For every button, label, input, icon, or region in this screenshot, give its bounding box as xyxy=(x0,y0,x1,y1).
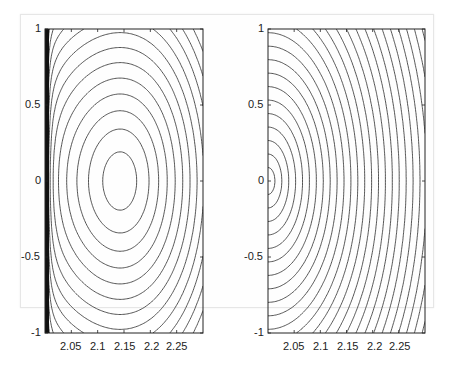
right-xtick-2.1: 2.1 xyxy=(313,340,328,352)
right-contour-plot: 1 0.5 0 -0.5 -1 2.05 2.1 2.15 2.2 2.25 xyxy=(0,0,450,369)
right-xtick-2.25: 2.25 xyxy=(389,340,410,352)
right-xtick-2.05: 2.05 xyxy=(283,340,304,352)
right-ytick-neg0.5: -0.5 xyxy=(244,250,263,262)
right-xtick-2.15: 2.15 xyxy=(337,340,358,352)
right-ytick-neg1: -1 xyxy=(254,326,264,338)
right-xtick-2.2: 2.2 xyxy=(367,340,382,352)
right-ytick-0.5: 0.5 xyxy=(248,98,263,110)
right-contour-canvas xyxy=(0,0,450,369)
right-ytick-1: 1 xyxy=(258,22,264,34)
right-ytick-0: 0 xyxy=(258,174,264,186)
